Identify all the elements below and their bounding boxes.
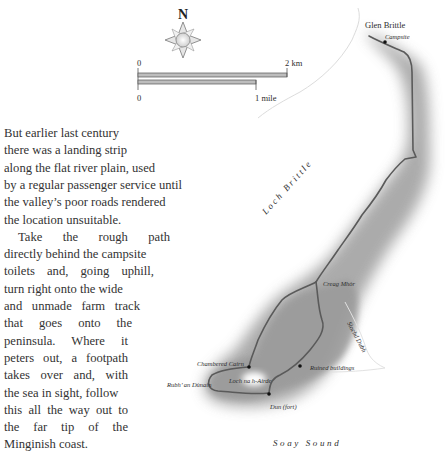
text-line: peninsula. Where it [4,333,128,350]
label-creag-mhor: Creag Mhòr [323,280,356,287]
text-line: the far tip of the [4,419,128,436]
label-loch-brittle: Loch Brittle [259,158,314,217]
label-ruined-buildings: Ruined buildings [309,364,355,371]
text-line: by a regular passenger service until [4,177,182,194]
text-line: along the flat river plain, used [4,160,155,177]
chambered-cairn-marker [247,365,251,369]
scale-bar [138,68,287,90]
text-line: this all the way out to [4,402,128,419]
text-line: peters out, a footpath [4,350,128,367]
scale-km-end: 2 km [285,58,303,68]
text-line: Take the rough path [18,229,170,246]
north-label: N [178,7,188,22]
scale-mile-start: 0 [137,93,141,103]
text-line: the location unsuitable. [4,212,121,229]
text-line: there was a landing strip [4,142,127,159]
text-line: takes over and, with [4,367,128,384]
text-line: toilets and, going uphill, [4,263,154,280]
body-text: But earlier last century there was a lan… [4,125,190,455]
text-line: But earlier last century [4,125,119,142]
text-line: directly behind the campsite [4,246,146,263]
text-line: turn right onto the wide [4,281,123,298]
label-soay-sound: Soay Sound [273,438,341,448]
scale-km-start: 0 [137,58,141,68]
text-line: Minginish coast. [4,436,88,453]
label-campsite: Campsite [385,33,410,40]
scale-mile-end: 1 mile [255,93,277,103]
campsite-marker [383,40,387,44]
text-line: the valley’s poor roads rendered [4,194,166,211]
label-glen-brittle: Glen Brittle [365,20,406,30]
label-dun-fort: Dun (fort) [269,403,297,411]
ruined-buildings-marker [298,364,302,368]
label-lochan-na-h-airde: Loch na h-Airde [228,377,271,384]
dun-fort-marker [267,392,271,396]
text-line: and unmade farm track [4,298,140,315]
label-chambered-cairn: Chambered Cairn [197,360,244,367]
text-line: that goes onto the [4,315,132,332]
compass-rose-icon [165,22,201,58]
text-line: the sea in sight, follow [4,385,118,402]
